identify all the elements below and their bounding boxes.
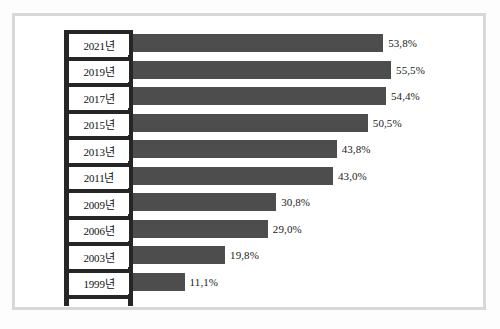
bar-value-label: 11,1% (190, 273, 219, 291)
category-label: 2009년 (69, 193, 129, 214)
bar-value-label: 43,0% (338, 167, 367, 185)
bar (133, 140, 337, 158)
bar (133, 87, 386, 105)
bar-value-label: 29,0% (273, 220, 302, 238)
category-label: 2011년 (69, 167, 129, 188)
category-label: 2017년 (69, 87, 129, 108)
chart-screenshot: 2021년2019년2017년2015년2013년2011년2009년2006년… (0, 0, 500, 329)
bar (133, 167, 333, 185)
bar (133, 273, 185, 291)
chart-frame: 2021년2019년2017년2015년2013년2011년2009년2006년… (12, 13, 486, 310)
bar (133, 220, 268, 238)
bar-value-label: 30,8% (281, 193, 310, 211)
category-label: 2015년 (69, 114, 129, 135)
category-label: 2019년 (69, 61, 129, 82)
bar-value-label: 53,8% (388, 34, 417, 52)
category-label: 1999년 (69, 273, 129, 294)
axis-rung-bottom (64, 295, 133, 299)
category-label: 2021년 (69, 34, 129, 55)
category-label: 2006년 (69, 220, 129, 241)
bar (133, 61, 391, 79)
bar-value-label: 43,8% (342, 140, 371, 158)
bar-value-label: 54,4% (391, 87, 420, 105)
category-label: 2013년 (69, 140, 129, 161)
bar (133, 114, 368, 132)
bar-value-label: 19,8% (230, 246, 259, 264)
bar (133, 193, 276, 211)
plot-area: 2021년2019년2017년2015년2013년2011년2009년2006년… (15, 16, 489, 313)
category-label: 2003년 (69, 246, 129, 267)
bar-value-label: 55,5% (396, 61, 425, 79)
bar-value-label: 50,5% (373, 114, 402, 132)
bar (133, 34, 383, 52)
bar (133, 246, 225, 264)
